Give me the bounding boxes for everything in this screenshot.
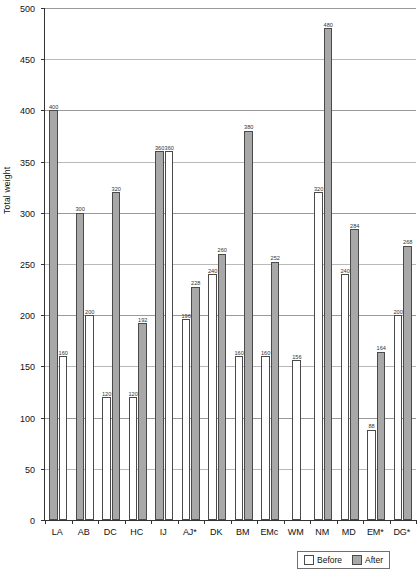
- y-axis-tick-label: 100: [20, 414, 35, 424]
- bar-value-label: 164: [377, 346, 386, 352]
- legend-item-before: Before: [304, 555, 342, 565]
- bar-chart: Total weight 050100150200250300350400450…: [0, 0, 419, 576]
- y-axis-tick-label: 150: [20, 362, 35, 372]
- x-axis-label-DGstar: DG*: [393, 527, 410, 537]
- bar-value-label: 380: [244, 125, 253, 131]
- bar-value-label: 200: [85, 310, 94, 316]
- bar-value-label: 156: [292, 355, 301, 361]
- x-axis-label-DK: DK: [210, 527, 222, 537]
- bar-EMstar-before: 88: [367, 430, 376, 520]
- bar-NM-before: 320: [314, 192, 323, 520]
- legend-item-after: After: [352, 555, 383, 565]
- bar-value-label: 240: [340, 269, 349, 275]
- y-axis-tick-label: 350: [20, 158, 35, 168]
- bar-IJ-before: 360: [165, 151, 174, 520]
- bar-BM-after: 380: [244, 131, 253, 520]
- bar-AB-before: 200: [85, 315, 94, 520]
- bar-DC-before: 120: [102, 397, 111, 520]
- y-axis-tick-label: 250: [20, 260, 35, 270]
- bar-value-label: 160: [59, 351, 68, 357]
- x-axis-tick: [45, 520, 46, 524]
- bar-group: 120192: [125, 8, 152, 520]
- bar-group: 200268: [390, 8, 417, 520]
- y-axis-tick-label: 300: [20, 209, 35, 219]
- bar-DK-before: 240: [208, 274, 217, 520]
- x-axis-tick: [231, 520, 232, 524]
- bar-HC-after: 192: [138, 323, 147, 520]
- bar-group: 360360: [151, 8, 178, 520]
- bar-WM-before: 156: [292, 360, 301, 520]
- legend-label-before: Before: [317, 555, 342, 565]
- plot-area: 050100150200250300350400450500 400160300…: [44, 8, 416, 521]
- bar-group: 120320: [98, 8, 125, 520]
- x-axis-label-NM: NM: [315, 527, 329, 537]
- bar-group: 240260: [204, 8, 231, 520]
- bar-NM-after: 480: [324, 28, 333, 520]
- x-axis-label-AB: AB: [78, 527, 90, 537]
- x-axis-label-LA: LA: [52, 527, 63, 537]
- y-axis-tick-label: 400: [20, 106, 35, 116]
- y-axis-tick-label: 450: [20, 55, 35, 65]
- bar-LA-before: 160: [59, 356, 68, 520]
- bar-value-label: 196: [181, 314, 190, 320]
- x-axis-tick: [363, 520, 364, 524]
- x-axis-tick: [337, 520, 338, 524]
- x-axis-label-MD: MD: [342, 527, 356, 537]
- x-axis-tick: [390, 520, 391, 524]
- x-axis-label-IJ: IJ: [160, 527, 167, 537]
- bar-value-label: 300: [75, 207, 84, 213]
- bar-value-label: 320: [112, 187, 121, 193]
- bar-DK-after: 260: [218, 254, 227, 520]
- bar-value-label: 160: [234, 351, 243, 357]
- x-axis-label-AJstar: AJ*: [183, 527, 197, 537]
- bar-MD-after: 284: [350, 229, 359, 520]
- bar-value-label: 400: [49, 105, 58, 111]
- bar-value-label: 360: [155, 146, 164, 152]
- y-axis-tick-label: 500: [20, 4, 35, 14]
- bar-value-label: 228: [191, 281, 200, 287]
- x-axis-tick: [72, 520, 73, 524]
- bar-MD-before: 240: [341, 274, 350, 520]
- bar-group: 160252: [257, 8, 284, 520]
- bar-value-label: 284: [350, 224, 359, 230]
- bar-value-label: 252: [271, 256, 280, 262]
- x-axis-label-BM: BM: [236, 527, 249, 537]
- y-axis-tick-label: 0: [30, 516, 35, 526]
- legend-swatch-before-icon: [304, 555, 314, 565]
- bar-IJ-after: 360: [155, 151, 164, 520]
- bar-DGstar-before: 200: [394, 315, 403, 520]
- bar-LA-after: 400: [49, 110, 58, 520]
- bar-group: 196228: [178, 8, 205, 520]
- bar-value-label: 88: [368, 424, 374, 430]
- bar-group: 156: [284, 8, 311, 520]
- bar-DGstar-after: 268: [403, 246, 412, 520]
- bar-value-label: 160: [261, 351, 270, 357]
- bar-group: 400160: [45, 8, 72, 520]
- bar-AB-after: 300: [76, 213, 85, 520]
- x-axis-label-DC: DC: [104, 527, 117, 537]
- bar-value-label: 120: [128, 392, 137, 398]
- bar-HC-before: 120: [129, 397, 138, 520]
- y-axis-title: Total weight: [2, 94, 12, 214]
- y-axis-tick-label: 200: [20, 311, 35, 321]
- bar-value-label: 260: [218, 248, 227, 254]
- bar-DC-after: 320: [112, 192, 121, 520]
- bar-value-label: 120: [102, 392, 111, 398]
- bar-series-container: 4001603002001203201201923603601962282402…: [45, 8, 416, 520]
- bar-value-label: 480: [324, 23, 333, 29]
- bar-value-label: 320: [314, 187, 323, 193]
- legend-swatch-after-icon: [352, 555, 362, 565]
- x-axis-label-EMc: EMc: [260, 527, 278, 537]
- x-axis-tick: [204, 520, 205, 524]
- x-axis-label-HC: HC: [130, 527, 143, 537]
- bar-EMc-after: 252: [271, 262, 280, 520]
- bar-group: 88164: [363, 8, 390, 520]
- bar-value-label: 268: [403, 240, 412, 246]
- y-axis-tick-label: 50: [25, 465, 35, 475]
- bar-value-label: 200: [393, 310, 402, 316]
- x-axis-tick: [284, 520, 285, 524]
- bar-AJstar-before: 196: [182, 319, 191, 520]
- bar-value-label: 360: [165, 146, 174, 152]
- bar-group: 300200: [72, 8, 99, 520]
- x-axis-tick: [257, 520, 258, 524]
